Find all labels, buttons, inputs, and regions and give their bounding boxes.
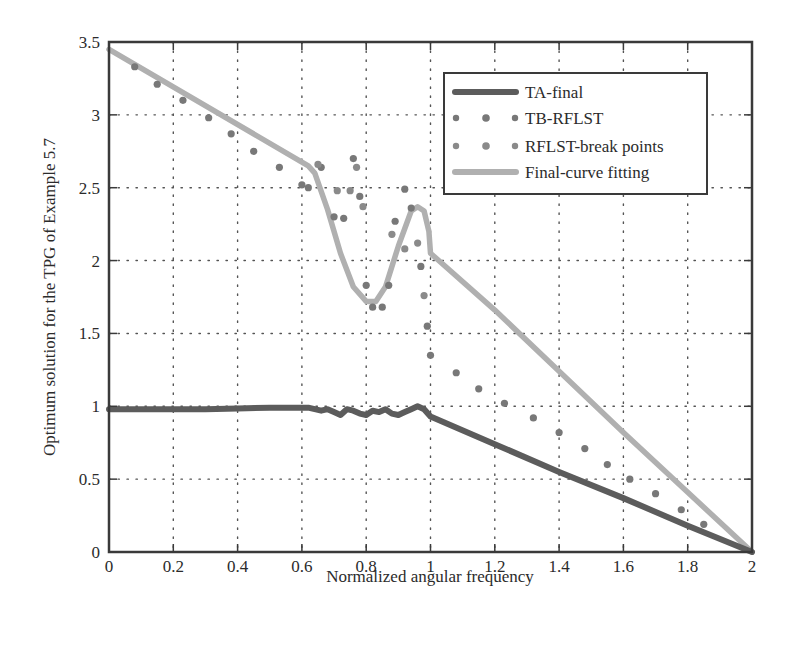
data-point: [700, 521, 707, 528]
x-tick-label: 1.4: [548, 557, 570, 576]
data-point: [314, 161, 321, 168]
data-point: [276, 164, 283, 171]
x-tick-label: 0: [105, 557, 114, 576]
data-point: [427, 352, 434, 359]
data-point: [414, 239, 421, 246]
y-tick-label: 3.5: [79, 33, 100, 52]
data-point: [501, 400, 508, 407]
data-point: [417, 263, 424, 270]
data-point: [475, 385, 482, 392]
data-point: [401, 186, 408, 193]
data-point: [363, 282, 370, 289]
data-point: [359, 203, 366, 210]
data-point: [388, 231, 395, 238]
data-point: [330, 213, 337, 220]
data-point: [350, 155, 357, 162]
data-point: [298, 181, 305, 188]
data-point: [131, 63, 138, 70]
data-point: [530, 414, 537, 421]
series-ta-final: [109, 406, 752, 552]
x-axis-title: Normalized angular frequency: [326, 567, 534, 586]
legend: TA-final TB-RFLST RFLST-break points Fin…: [444, 73, 707, 194]
y-tick-label: 2: [92, 252, 101, 271]
series-line: [109, 406, 752, 552]
legend-label: TB-RFLST: [525, 109, 604, 128]
y-tick-label: 1: [92, 397, 101, 416]
chart: 00.20.40.60.811.21.41.61.82 00.511.522.5…: [0, 0, 798, 645]
y-tick-label: 2.5: [79, 179, 100, 198]
data-point: [401, 245, 408, 252]
legend-label: TA-final: [525, 83, 583, 102]
data-point: [556, 429, 563, 436]
data-point: [385, 282, 392, 289]
data-point: [652, 490, 659, 497]
data-point: [205, 114, 212, 121]
data-point: [420, 292, 427, 299]
data-point: [250, 148, 257, 155]
data-point: [334, 187, 341, 194]
x-tick-label: 0.4: [227, 557, 249, 576]
data-point: [356, 193, 363, 200]
data-point: [353, 164, 360, 171]
data-point: [179, 97, 186, 104]
legend-label: RFLST-break points: [525, 137, 664, 156]
y-tick-label: 0.5: [79, 470, 100, 489]
x-tick-label: 0.2: [163, 557, 184, 576]
x-tick-label: 1.6: [613, 557, 634, 576]
data-point: [424, 323, 431, 330]
x-tick-label: 0.6: [291, 557, 312, 576]
x-tick-label: 2: [748, 557, 757, 576]
data-point: [347, 187, 354, 194]
y-tick-label: 3: [92, 106, 101, 125]
data-point: [369, 304, 376, 311]
legend-label: Final-curve fitting: [525, 163, 650, 182]
data-point: [379, 304, 386, 311]
data-point: [154, 81, 161, 88]
data-point: [453, 369, 460, 376]
data-point: [604, 461, 611, 468]
data-point: [228, 130, 235, 137]
y-axis-tick-labels: 00.511.522.533.5: [79, 33, 100, 562]
data-point: [581, 445, 588, 452]
data-point: [626, 476, 633, 483]
data-point: [305, 184, 312, 191]
data-point: [340, 215, 347, 222]
y-axis-title: Optimum solution for the TPG of Example …: [40, 138, 59, 456]
x-tick-label: 1.8: [677, 557, 698, 576]
data-point: [392, 218, 399, 225]
y-tick-label: 0: [92, 543, 101, 562]
data-point: [408, 205, 415, 212]
data-point: [678, 506, 685, 513]
y-tick-label: 1.5: [79, 324, 100, 343]
